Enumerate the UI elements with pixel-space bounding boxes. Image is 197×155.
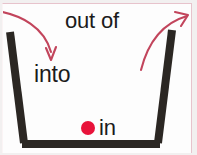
container-right-wall — [158, 30, 172, 143]
red-object-dot — [81, 121, 95, 135]
container-left-wall — [10, 32, 24, 143]
out-of-arrow-shaft — [141, 16, 187, 70]
diagram-canvas: out of into in — [2, 3, 192, 153]
preposition-diagram: out of into in — [0, 0, 197, 155]
label-out-of: out of — [65, 10, 119, 32]
label-in: in — [99, 117, 116, 139]
label-into: into — [34, 63, 70, 86]
